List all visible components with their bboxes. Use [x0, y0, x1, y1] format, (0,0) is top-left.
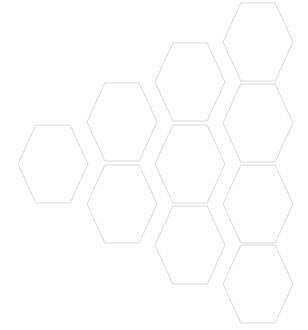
- hexagon-cell[interactable]: [18, 125, 88, 203]
- hexagon-grid-canvas: [0, 0, 308, 330]
- hexagon-cell[interactable]: [155, 125, 225, 203]
- hexagon-cell[interactable]: [223, 84, 293, 162]
- hexagon-cell[interactable]: [155, 43, 225, 121]
- hexagon-cell[interactable]: [87, 165, 157, 243]
- hexagon-cell[interactable]: [87, 83, 157, 161]
- hexagon-cell[interactable]: [223, 165, 293, 243]
- hexagon-cell[interactable]: [223, 3, 293, 81]
- hexagon-group: [18, 3, 293, 323]
- hexagon-grid-svg: [0, 0, 308, 330]
- hexagon-cell[interactable]: [155, 206, 225, 284]
- hexagon-cell[interactable]: [223, 245, 293, 323]
